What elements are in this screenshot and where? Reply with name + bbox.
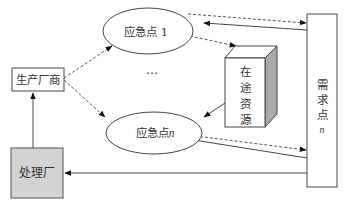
edge-ep1-to-transit bbox=[190, 36, 236, 46]
node-manufacturer: 生产厂商 bbox=[12, 68, 64, 91]
transit-char-2: 途 bbox=[240, 81, 252, 95]
edge-demand-to-ep1 bbox=[204, 23, 307, 30]
transit-char-1: 在 bbox=[240, 65, 251, 79]
emergency-point-1-label: 应急点 1 bbox=[124, 25, 168, 39]
node-in-transit-resources: 在 途 资 源 bbox=[225, 46, 277, 127]
emergency-point-n-label: 应急点n bbox=[136, 126, 175, 140]
node-emergency-point-n: 应急点n bbox=[106, 112, 202, 154]
demand-index: n bbox=[320, 124, 325, 135]
transit-char-3: 资 bbox=[240, 97, 251, 111]
transit-char-4: 源 bbox=[240, 113, 252, 127]
node-treatment-plant: 处理厂 bbox=[11, 148, 63, 198]
manufacturer-label: 生产厂商 bbox=[16, 73, 60, 87]
ellipsis-text: … bbox=[146, 63, 158, 77]
edge-manufacturer-to-epn bbox=[64, 80, 105, 117]
edge-ep1-to-demand bbox=[188, 14, 306, 23]
treatment-plant-label: 处理厂 bbox=[19, 166, 55, 180]
edge-transit-to-epn bbox=[204, 103, 225, 117]
demand-char-3: 点 bbox=[317, 108, 328, 122]
node-demand-point: 需 求 点 n bbox=[307, 14, 337, 187]
demand-char-1: 需 bbox=[317, 78, 328, 92]
node-emergency-point-1: 应急点 1 bbox=[103, 8, 193, 54]
demand-char-2: 求 bbox=[317, 93, 329, 107]
edge-manufacturer-to-ep1 bbox=[64, 46, 112, 78]
supply-chain-diagram: 生产厂商 处理厂 应急点 1 … 应急点n 在 途 资 源 需 求 点 n bbox=[0, 0, 345, 205]
